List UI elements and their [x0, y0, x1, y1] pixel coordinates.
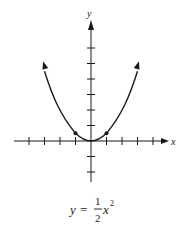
caption-denominator: 2	[95, 212, 101, 224]
caption-equals: =	[80, 202, 87, 217]
caption-variable: x	[102, 202, 109, 217]
curve-left-arrow-icon	[40, 60, 48, 69]
curve-right-arrow-icon	[134, 60, 142, 69]
x-axis-arrow-icon	[161, 138, 169, 144]
point-neg1	[74, 131, 78, 135]
y-axis-arrow-icon	[88, 20, 94, 30]
point-pos1	[105, 131, 109, 135]
x-axis-label: x	[170, 136, 176, 147]
caption-numerator: 1	[95, 195, 101, 207]
equation-caption: y = 1 2 x 2	[0, 192, 184, 232]
caption-lhs: y	[68, 202, 76, 217]
y-axis-label: y	[86, 8, 92, 19]
caption-exponent: 2	[110, 199, 114, 208]
x-axis: x	[14, 136, 176, 147]
y-axis: y	[86, 8, 95, 182]
